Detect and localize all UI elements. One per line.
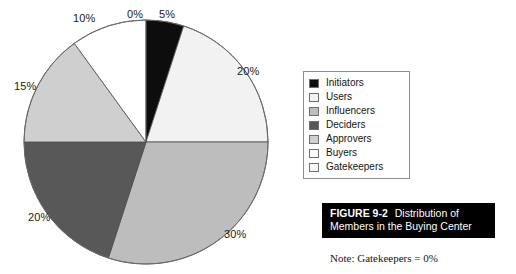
legend-swatch-icon xyxy=(309,163,319,172)
legend-item-approvers: Approvers xyxy=(309,132,404,146)
figure-container: 0% 5% 20% 30% 20% 15% 10% Initiators Use… xyxy=(0,0,516,274)
legend-swatch-icon xyxy=(309,93,319,102)
legend-label: Deciders xyxy=(326,119,365,131)
pie-label-users: 20% xyxy=(237,65,259,77)
legend-item-initiators: Initiators xyxy=(309,76,404,90)
pie-label-influencers: 30% xyxy=(224,228,246,240)
pie-label-buyers: 10% xyxy=(73,12,95,24)
legend-item-gatekeepers: Gatekeepers xyxy=(309,160,404,174)
legend-label: Initiators xyxy=(326,77,364,89)
figure-caption-line: FIGURE 9-2Distribution of Members in the… xyxy=(330,207,488,233)
figure-caption-number: FIGURE 9-2 xyxy=(330,207,388,219)
legend-item-deciders: Deciders xyxy=(309,118,404,132)
legend-label: Approvers xyxy=(326,133,372,145)
legend-item-buyers: Buyers xyxy=(309,146,404,160)
legend-label: Gatekeepers xyxy=(326,161,383,173)
legend-swatch-icon xyxy=(309,121,319,130)
legend-swatch-icon xyxy=(309,149,319,158)
pie-label-deciders: 20% xyxy=(28,211,50,223)
figure-note: Note: Gatekeepers = 0% xyxy=(330,252,438,264)
pie-chart: 0% 5% 20% 30% 20% 15% 10% xyxy=(0,0,292,274)
chart-legend: Initiators Users Influencers Deciders Ap… xyxy=(303,71,410,179)
legend-swatch-icon xyxy=(309,79,319,88)
legend-swatch-icon xyxy=(309,135,319,144)
legend-swatch-icon xyxy=(309,107,319,116)
legend-item-influencers: Influencers xyxy=(309,104,404,118)
pie-label-gatekeepers: 0% xyxy=(127,8,143,20)
legend-label: Buyers xyxy=(326,147,357,159)
pie-chart-svg xyxy=(0,0,292,274)
legend-label: Users xyxy=(326,91,352,103)
figure-caption: FIGURE 9-2Distribution of Members in the… xyxy=(322,203,495,238)
pie-label-approvers: 15% xyxy=(14,80,36,92)
pie-label-initiators: 5% xyxy=(159,8,175,20)
legend-label: Influencers xyxy=(326,105,375,117)
legend-item-users: Users xyxy=(309,90,404,104)
